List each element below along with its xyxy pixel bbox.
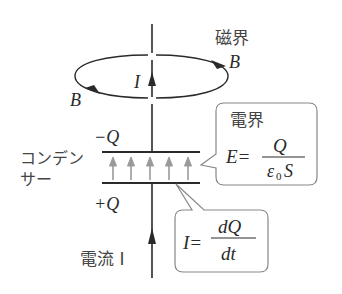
current-label-bottom: 電流 I <box>80 249 124 269</box>
i-numerator: dQ <box>218 216 242 237</box>
current-arrow-up-icon <box>148 72 156 86</box>
b-label-left: B <box>70 90 81 110</box>
current-callout: I= dQ dt <box>175 184 268 272</box>
i-denominator: dt <box>221 243 237 264</box>
e-numerator: Q <box>273 135 287 156</box>
e-denominator-sub: 0 <box>276 170 282 182</box>
wire-bottom <box>148 183 156 278</box>
wire-top <box>148 24 156 152</box>
e-lhs: E= <box>225 146 250 167</box>
i-lhs: I= <box>182 232 202 253</box>
electric-field-callout: 電界 E= Q ε 0 S <box>201 103 317 185</box>
current-label-top: I <box>133 72 141 92</box>
electric-field-title: 電界 <box>230 110 264 130</box>
b-label-right: B <box>229 52 240 72</box>
e-denominator-s: S <box>284 161 293 181</box>
capacitor-displacement-current-diagram: 磁界 B B I −Q +Q コンデン サー 電流 I 電界 E= Q ε 0 … <box>0 0 342 294</box>
e-denominator-eps: ε <box>267 161 275 181</box>
magnetic-field-label: 磁界 <box>215 28 249 48</box>
minus-q-label: −Q <box>94 127 119 147</box>
capacitor-label-line2: サー <box>20 170 52 189</box>
current-arrow-up-bottom-icon <box>148 228 156 244</box>
plus-q-label: +Q <box>94 194 119 214</box>
electric-field-arrows <box>110 157 192 180</box>
capacitor-label-line1: コンデン <box>20 149 84 168</box>
